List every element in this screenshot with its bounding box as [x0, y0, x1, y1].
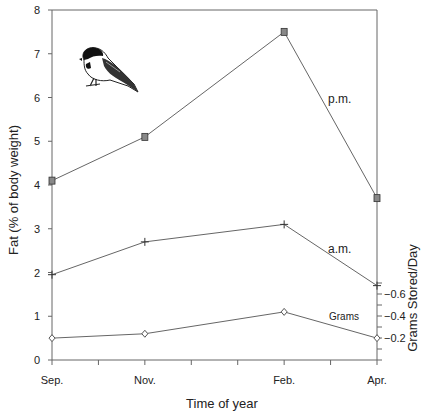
marker-plus	[141, 238, 149, 246]
series-label-grams: Grams	[329, 311, 359, 322]
y-tick-label: 7	[34, 48, 40, 60]
right-tick-label: −0.2	[384, 332, 406, 344]
marker-diamond	[374, 335, 380, 342]
marker-square	[374, 195, 380, 202]
x-tick-label: Sep.	[41, 374, 64, 386]
x-tick-label: Apr.	[367, 374, 387, 386]
marker-square	[281, 28, 287, 35]
marker-plus	[48, 271, 56, 279]
y-tick-label: 8	[34, 4, 40, 16]
x-axis-label: Time of year	[186, 396, 258, 411]
right-axis-ticks: −0.2−0.4−0.6	[377, 283, 406, 360]
marker-diamond	[142, 330, 148, 337]
marker-plus	[280, 220, 288, 228]
fat-storage-chart: 012345678 Sep.Nov.Feb.Apr. −0.2−0.4−0.6 …	[0, 0, 423, 416]
marker-diamond	[49, 335, 55, 342]
marker-square	[142, 133, 148, 140]
y-tick-label: 5	[34, 135, 40, 147]
right-tick-label: −0.6	[384, 288, 406, 300]
y-axis-ticks: 012345678	[34, 4, 52, 366]
marker-diamond	[281, 308, 287, 315]
y-tick-label: 0	[34, 354, 40, 366]
y-axis-label: Fat (% of body weight)	[6, 125, 21, 255]
y-tick-label: 4	[34, 179, 40, 191]
y-tick-label: 2	[34, 267, 40, 279]
x-tick-label: Feb.	[273, 374, 295, 386]
x-tick-label: Nov.	[134, 374, 156, 386]
x-axis-ticks: Sep.Nov.Feb.Apr.	[41, 360, 387, 386]
series-label-am: a.m.	[328, 242, 351, 256]
right-tick-label: −0.4	[384, 310, 406, 322]
chickadee-illustration	[79, 48, 138, 92]
marker-square	[49, 177, 55, 184]
series-label-pm: p.m.	[328, 92, 351, 106]
right-axis-label: Grams Stored/Day	[405, 244, 420, 352]
y-tick-label: 1	[34, 310, 40, 322]
y-tick-label: 3	[34, 223, 40, 235]
y-tick-label: 6	[34, 92, 40, 104]
